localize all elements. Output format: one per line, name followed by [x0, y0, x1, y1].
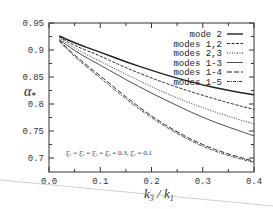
legend-label: modes 2,3	[173, 49, 222, 59]
x-tick-label: 0.1	[92, 177, 108, 187]
data-curves	[59, 36, 254, 162]
page-edge-line	[0, 180, 273, 206]
legend: mode 2modes 1,2modes 2,3modes 1-3modes 1…	[173, 30, 243, 88]
x-tick-label: 0.3	[195, 177, 211, 187]
y-tick-label: 0.85	[22, 73, 44, 83]
x-axis-label: k3 / k1	[144, 186, 174, 203]
legend-label: modes 1-3	[173, 59, 222, 69]
parameter-annotation: ξ̄₁ = ξ̄₃ = ξ̄₄ = ξ̄₅ = 0.3, ξ̄₂ = 0.1	[66, 149, 153, 157]
legend-label: modes 1-5	[173, 78, 222, 88]
y-tick-label: 0.9	[28, 46, 44, 56]
x-tick-label: 0.4	[246, 177, 262, 187]
line-chart: 0.70.750.80.850.90.95 0.00.10.20.30.4 mo…	[0, 0, 273, 209]
legend-label: mode 2	[190, 30, 222, 40]
x-tick-labels: 0.00.10.20.30.4	[41, 177, 262, 187]
y-tick-label: 0.95	[22, 19, 44, 29]
y-axis-label: α*	[24, 84, 36, 101]
y-tick-label: 0.8	[28, 100, 44, 110]
y-tick-label: 0.75	[22, 127, 44, 137]
curve-mode-2	[59, 36, 254, 95]
legend-label: modes 1,2	[173, 40, 222, 50]
y-tick-label: 0.7	[28, 154, 44, 164]
legend-label: modes 1-4	[173, 68, 222, 78]
curve-modes-1-3	[59, 39, 254, 136]
